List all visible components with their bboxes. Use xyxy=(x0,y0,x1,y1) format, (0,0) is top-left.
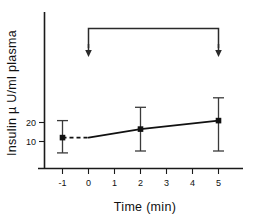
y-tick-group: 20 10 xyxy=(26,118,45,147)
error-bar-point-3 xyxy=(213,98,224,151)
bracket-left-arrow-icon xyxy=(85,50,92,57)
x-tick-label-1: 1 xyxy=(112,178,117,188)
y-tick-label-20: 20 xyxy=(26,118,36,128)
y-axis-title: Insulin µ U/ml plasma xyxy=(5,30,19,156)
x-tick-group: -1 0 1 2 3 4 5 xyxy=(58,169,221,189)
data-point-marker xyxy=(60,135,66,141)
x-tick-label-m1: -1 xyxy=(58,178,66,188)
series-segment-solid xyxy=(89,121,219,138)
insulin-time-chart-figure: 20 10 -1 0 1 2 3 4 5 xyxy=(0,0,256,218)
data-point-marker xyxy=(216,118,222,124)
error-bar-group xyxy=(57,98,224,153)
x-tick-label-0: 0 xyxy=(86,178,91,188)
infusion-bracket-annotation xyxy=(85,29,222,58)
bracket-right-arrow-icon xyxy=(215,50,222,57)
x-tick-label-5: 5 xyxy=(216,178,221,188)
data-point-marker xyxy=(138,126,144,132)
x-tick-label-2: 2 xyxy=(138,178,143,188)
x-axis-title: Time (min) xyxy=(114,200,176,214)
x-tick-label-4: 4 xyxy=(190,178,195,188)
bracket-path xyxy=(89,29,219,49)
y-tick-label-10: 10 xyxy=(26,137,36,147)
chart-canvas: 20 10 -1 0 1 2 3 4 5 xyxy=(0,0,256,218)
x-tick-label-3: 3 xyxy=(164,178,169,188)
